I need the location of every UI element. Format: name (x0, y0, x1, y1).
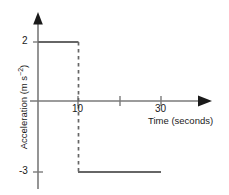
y-axis-title-exponent: −2 (17, 68, 24, 76)
plot-canvas (0, 0, 229, 195)
y-axis-arrowhead (33, 12, 43, 25)
x-axis-arrowhead (198, 96, 212, 107)
x-tick-label-10: 10 (72, 103, 83, 114)
y-axis-title-close: ) (18, 65, 29, 68)
y-axis-title-text: Acceleration (m s (18, 76, 29, 149)
acceleration-time-graph: 2 -3 10 30 Time (seconds) Acceleration (… (0, 0, 229, 195)
y-axis-title: Acceleration (m s−2) (18, 65, 29, 150)
y-axis-title-wrapper: Acceleration (m s−2) (13, 37, 31, 177)
x-tick-label-30: 30 (155, 103, 166, 114)
x-axis-title: Time (seconds) (148, 115, 213, 126)
